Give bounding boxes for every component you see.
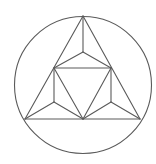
line-segments bbox=[25, 16, 140, 119]
segment-PM bbox=[54, 68, 83, 119]
triangle-in-circle-figure bbox=[0, 0, 156, 164]
segment-QM bbox=[83, 68, 111, 119]
geometric-diagram bbox=[0, 0, 156, 164]
